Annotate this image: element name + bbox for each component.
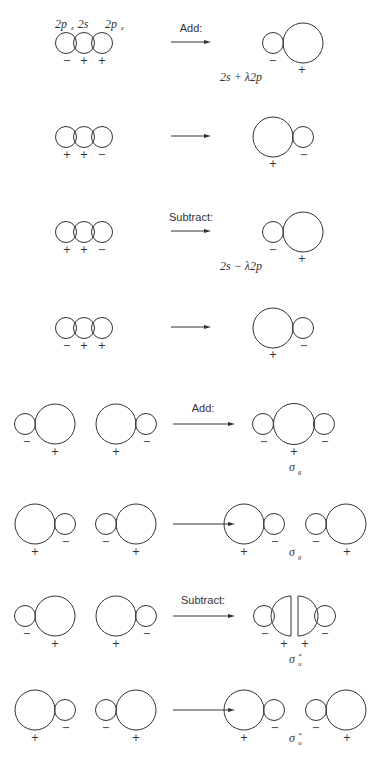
input-sign-0: + [63,244,71,255]
operation-label: Subtract: [181,594,225,606]
mo-label-subscript: u [298,660,302,668]
mo-b-sign-plus: + [343,546,351,557]
mo-sign-left: − [260,436,268,447]
atom-a-small-lobe [55,700,76,721]
input-sign-1: + [80,55,88,66]
result-sign-large: + [269,158,277,169]
mo-a-small-lobe [264,700,285,721]
arrow-head-icon [204,40,211,44]
result-label: 2s + λ2p [220,70,262,84]
atom-b-sign-plus: + [112,638,120,649]
input-sign-0: − [63,55,71,66]
mo-sign-center: + [290,446,298,457]
mo-label-superscript: * [298,731,302,739]
mo-sign-center-right: + [301,638,309,649]
orbital-combination-diagram: 2pz2s2pz−++Add:−+2s + λ2p++−+−++−Subtrac… [0,0,384,764]
mo-label-superscript: * [298,652,302,660]
arrow-head-icon [228,422,235,426]
mo-b-small-lobe [306,700,327,721]
atom-b-sign-plus: + [132,732,140,743]
result-label: 2s − λ2p [220,259,262,273]
atom-a-sign-minus: − [23,628,31,639]
input-sign-2: + [98,55,106,66]
result-sign-small: − [269,244,277,255]
input-sign-1: + [80,340,88,351]
mo-sign-center-left: + [280,638,288,649]
hybrid-row-3: ++−Subtract:−+2s − λ2p [56,211,324,273]
mo-label-subscript: g [298,553,302,561]
header-label-1: 2s [78,17,89,31]
mo-sign-right: − [321,436,329,447]
mo-b-large-lobe [326,690,366,730]
hybrid-row-2: ++−+− [56,117,314,169]
atom-a-sign-minus: − [62,536,70,547]
mo-label-subscript: u [298,739,302,747]
mo-sign-right: − [321,628,329,639]
atom-a-sign-plus: + [31,732,39,743]
mo-center-lobe [274,404,315,445]
atom-b-sign-plus: + [112,446,120,457]
atom-a-small-lobe [15,606,36,627]
input-sign-2: − [98,149,106,160]
atom-b-large-lobe [116,504,156,544]
result-large-lobe [253,308,293,348]
hybrid-row-1: −++Add:−+2s + λ2p [56,22,324,84]
arrow-head-icon [204,134,211,138]
result-small-lobe [293,318,314,339]
mo-b-sign-plus: + [343,732,351,743]
atom-a-sign-plus: + [31,546,39,557]
mo-sign-left: − [261,628,269,639]
result-large-lobe [283,23,323,63]
input-sign-2: + [98,340,106,351]
mo-a-small-lobe [264,514,285,535]
atom-b-sign-plus: + [132,546,140,557]
atom-a-large-lobe [15,690,55,730]
input-sign-0: − [63,340,71,351]
arrow-head-icon [204,325,211,329]
atom-b-sign-minus: − [102,722,110,733]
atom-b-sign-minus: − [102,536,110,547]
input-sign-0: + [63,149,71,160]
operation-label: Add: [192,402,215,414]
input-sign-2: − [98,244,106,255]
atom-a-large-lobe [15,504,55,544]
atom-b-sign-minus: − [143,436,151,447]
arrow-head-icon [228,708,235,712]
atom-b-large-lobe [116,690,156,730]
hybrid-row-4: −+++− [56,308,314,360]
header-label-2: 2p [105,17,117,31]
atom-a-large-lobe [35,404,75,444]
mo-a-sign-plus: + [240,732,248,743]
input-sign-1: + [80,149,88,160]
header-label-0: 2p [55,17,67,31]
arrow-head-icon [228,614,235,618]
atom-b-large-lobe [96,596,136,636]
result-large-lobe [283,212,323,252]
result-small-lobe [263,222,284,243]
atom-b-small-lobe [96,514,117,535]
mo-label-symbol: σ [289,545,296,559]
atom-b-sign-minus: − [143,628,151,639]
result-large-lobe [253,117,293,157]
operation-label: Subtract: [169,211,213,223]
mo-row-3: −++−Subtract:−++−σu* [15,594,336,668]
mo-a-sign-minus: − [271,722,279,733]
atom-a-large-lobe [35,596,75,636]
result-small-lobe [263,33,284,54]
mo-left-lobe [253,414,274,435]
diagram-canvas: 2pz2s2pz−++Add:−+2s + λ2p++−+−++−Subtrac… [0,0,384,764]
atom-b-small-lobe [136,414,157,435]
result-small-lobe [293,127,314,148]
atom-a-sign-minus: − [62,722,70,733]
result-sign-large: + [298,253,306,264]
header-subscript: z [70,24,74,32]
mo-label-symbol: σ [289,731,296,745]
mo-a-sign-minus: − [271,536,279,547]
result-sign-large: + [269,349,277,360]
arrow-head-icon [204,229,211,233]
mo-b-sign-minus: − [312,722,320,733]
mo-b-small-lobe [306,514,327,535]
mo-label-subscript: g [298,468,302,476]
header-subscript: z [120,24,124,32]
input-sign-1: + [80,244,88,255]
